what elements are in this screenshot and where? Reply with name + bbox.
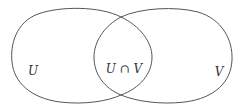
venn-shapes (0, 0, 245, 111)
set-v-outline (121, 9, 232, 103)
set-u-outline (12, 8, 121, 103)
set-u-inner-arc (121, 17, 152, 95)
venn-diagram: U U ∩ V V (0, 0, 245, 111)
set-v-label: V (215, 66, 224, 78)
set-u-label: U (28, 65, 38, 77)
set-v-inner-arc (94, 17, 121, 95)
intersection-label: U ∩ V (106, 63, 142, 75)
